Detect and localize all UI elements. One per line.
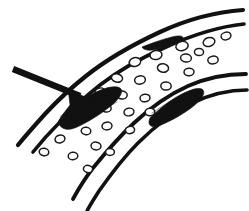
blood-cell — [161, 82, 172, 91]
blood-cell — [180, 54, 191, 63]
blood-cell — [140, 94, 151, 103]
blood-cell — [102, 121, 113, 130]
blood-cell — [68, 152, 78, 160]
vessel-lesion-figure — [0, 0, 249, 211]
blood-cell — [106, 149, 115, 156]
blood-cell — [194, 48, 203, 56]
blood-cell — [81, 127, 91, 135]
blood-cell — [91, 141, 102, 150]
illustration-canvas — [0, 0, 249, 211]
blood-cell — [207, 55, 218, 64]
blood-cell — [184, 68, 195, 76]
